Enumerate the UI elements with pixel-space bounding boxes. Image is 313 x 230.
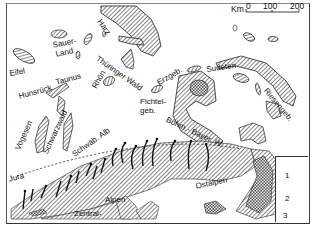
legend [275, 156, 308, 222]
scale-tick-0: 0 [246, 2, 251, 11]
legend-number-3: 3 [283, 212, 287, 220]
map-canvas [7, 4, 309, 223]
scale-tick-200: 200 [290, 2, 304, 11]
eifel-area [11, 46, 37, 67]
label-zentral: Zentral- [74, 210, 102, 218]
label-geb: geb. [140, 107, 156, 115]
label-fichtel: Fichtel- [140, 98, 166, 106]
legend-number-1: 1 [285, 172, 289, 180]
scale-tick-100: 100 [263, 2, 277, 11]
legend-number-2: 2 [285, 195, 289, 203]
label-alpen: Alpen [105, 196, 125, 204]
map-frame [6, 3, 310, 224]
scale-unit-label: Km [231, 5, 244, 14]
